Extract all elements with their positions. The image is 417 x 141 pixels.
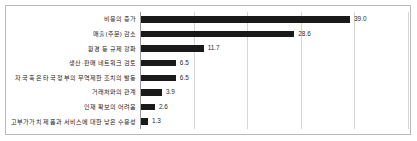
bar-wrapper: 11.7 bbox=[141, 41, 220, 56]
bar bbox=[141, 60, 176, 66]
category-label: 인재 확보의 어려움 bbox=[0, 104, 136, 110]
bar-row: 고부가가치 제품과 서비스에 대한 낮은 수용성1.3 bbox=[0, 114, 417, 129]
value-label: 6.5 bbox=[180, 60, 189, 66]
bar-wrapper: 2.6 bbox=[141, 100, 168, 115]
bar-row: 비용의 증가39.0 bbox=[0, 12, 417, 27]
category-label: 자국 혹은 타국 정부의 무역제한 조치의 발동 bbox=[0, 75, 136, 81]
category-label: 거래처와의 관계 bbox=[0, 89, 136, 95]
bar-wrapper: 6.5 bbox=[141, 71, 189, 86]
bar-wrapper: 6.5 bbox=[141, 56, 189, 71]
bar-wrapper: 1.3 bbox=[141, 114, 161, 129]
category-label: 생산·판매 네트워크 검토 bbox=[0, 60, 136, 66]
bar-row: 환경 등 규제 강화11.7 bbox=[0, 41, 417, 56]
bar bbox=[141, 118, 148, 124]
value-label: 39.0 bbox=[354, 16, 366, 22]
category-label: 매출(주문) 감소 bbox=[0, 31, 136, 37]
value-label: 2.6 bbox=[159, 104, 168, 110]
bar-row: 매출(주문) 감소28.6 bbox=[0, 27, 417, 42]
bar-row: 거래처와의 관계3.9 bbox=[0, 85, 417, 100]
bar-rows-group: 비용의 증가39.0매출(주문) 감소28.6환경 등 규제 강화11.7생산·… bbox=[0, 12, 417, 129]
bar-row: 생산·판매 네트워크 검토6.5 bbox=[0, 56, 417, 71]
bar bbox=[141, 45, 204, 51]
value-label: 28.6 bbox=[298, 31, 310, 37]
bar bbox=[141, 89, 162, 95]
value-label: 11.7 bbox=[208, 45, 220, 51]
category-label: 비용의 증가 bbox=[0, 16, 136, 22]
bar-row: 자국 혹은 타국 정부의 무역제한 조치의 발동6.5 bbox=[0, 71, 417, 86]
bar bbox=[141, 75, 176, 81]
category-label: 고부가가치 제품과 서비스에 대한 낮은 수용성 bbox=[0, 119, 136, 125]
value-label: 6.5 bbox=[180, 75, 189, 81]
bar-wrapper: 28.6 bbox=[141, 27, 311, 42]
bar bbox=[141, 31, 294, 37]
value-label: 3.9 bbox=[166, 89, 175, 95]
bar bbox=[141, 16, 350, 22]
bar-chart-figure: 비용의 증가39.0매출(주문) 감소28.6환경 등 규제 강화11.7생산·… bbox=[0, 0, 417, 141]
bar-wrapper: 39.0 bbox=[141, 12, 366, 27]
category-label: 환경 등 규제 강화 bbox=[0, 46, 136, 52]
bar-wrapper: 3.9 bbox=[141, 85, 175, 100]
value-label: 1.3 bbox=[152, 118, 161, 124]
bar-row: 인재 확보의 어려움2.6 bbox=[0, 100, 417, 115]
bar bbox=[141, 104, 155, 110]
